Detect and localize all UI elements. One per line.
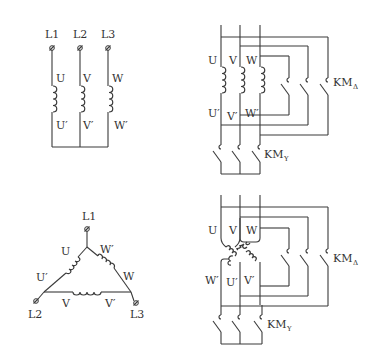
contact-icon xyxy=(213,145,260,162)
svg-text:KM: KM xyxy=(333,252,352,265)
star-connection-panel: L1 L2 L3 U V W U′ V′ W′ xyxy=(45,28,128,147)
label-L3: L3 xyxy=(101,28,115,41)
svg-text:Δ: Δ xyxy=(353,259,358,267)
coil-icon xyxy=(228,256,233,265)
label-V-prime: V′ xyxy=(226,110,238,123)
svg-text:KM: KM xyxy=(267,318,286,331)
label-V-prime: V′ xyxy=(104,297,116,310)
label-W: W xyxy=(246,54,258,67)
star-contactor-panel: U V W U′ V′ W′ KM Δ KM Y xyxy=(208,25,358,174)
svg-text:KM: KM xyxy=(333,76,352,89)
coil-icon xyxy=(261,67,265,93)
label-L1: L1 xyxy=(82,210,96,223)
label-W-prime: W′ xyxy=(100,243,114,256)
star-delta-diagram: L1 L2 L3 U V W U′ V′ W′ xyxy=(0,0,380,363)
svg-text:Δ: Δ xyxy=(353,83,358,91)
label-U: U xyxy=(61,245,70,258)
terminal-icon xyxy=(50,46,111,51)
label-U-prime: U′ xyxy=(208,107,220,120)
coil-icon xyxy=(241,67,245,93)
coil-icon xyxy=(53,86,57,112)
svg-text:KM: KM xyxy=(264,148,283,161)
coil-icon xyxy=(66,257,80,274)
coil-icon xyxy=(98,254,114,268)
label-L2: L2 xyxy=(28,308,42,321)
label-V: V xyxy=(61,297,71,310)
label-W-prime: W′ xyxy=(114,119,128,132)
coil-icon xyxy=(222,67,226,93)
label-U: U xyxy=(208,224,217,237)
label-U-prime: U′ xyxy=(36,271,48,284)
delta-contactor-panel: U V W W′ U′ V′ KM Δ KM Y xyxy=(205,195,358,344)
label-V: V xyxy=(82,72,92,85)
contactor-label-delta: KM Δ xyxy=(333,76,358,91)
svg-text:Y: Y xyxy=(286,325,292,333)
label-W-prime: W′ xyxy=(205,274,219,287)
contact-icon xyxy=(281,249,328,266)
label-L3: L3 xyxy=(130,308,144,321)
label-W: W xyxy=(123,270,135,283)
label-L1: L1 xyxy=(45,28,59,41)
label-V-prime: V′ xyxy=(82,119,94,132)
svg-text:Y: Y xyxy=(283,155,289,163)
label-W-prime: W′ xyxy=(245,107,259,120)
coil-icon xyxy=(246,251,256,261)
label-V-prime: V′ xyxy=(243,274,255,287)
contactor-label-star: KM Y xyxy=(264,148,289,163)
contactor-label-delta: KM Δ xyxy=(333,252,358,267)
label-V: V xyxy=(228,54,238,67)
label-U-prime: U′ xyxy=(226,276,238,289)
contact-icon xyxy=(213,315,262,332)
label-W: W xyxy=(112,72,124,85)
coil-icon xyxy=(73,292,101,295)
contact-icon xyxy=(281,78,328,95)
coil-icon xyxy=(81,86,85,112)
coil-icon xyxy=(226,246,236,256)
coil-icon xyxy=(109,86,113,112)
label-W: W xyxy=(246,224,258,237)
label-L2: L2 xyxy=(73,28,87,41)
label-U-prime: U′ xyxy=(56,119,68,132)
label-U: U xyxy=(56,72,65,85)
label-V: V xyxy=(228,224,238,237)
delta-connection-panel: L1 U U′ W′ W V V′ L2 L3 xyxy=(28,210,144,321)
label-U: U xyxy=(208,54,217,67)
contactor-label-star: KM Y xyxy=(267,318,292,333)
